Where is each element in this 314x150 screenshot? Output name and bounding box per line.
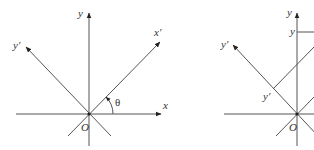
theta-arc [106, 97, 113, 114]
y-prime-axis [26, 47, 111, 136]
y-axis-label: y [77, 7, 83, 19]
y-point-label: y [289, 25, 295, 37]
right-panel: y y y′ y′ O [220, 6, 314, 146]
y-axis-label: y [286, 6, 292, 18]
origin-label: O [81, 121, 89, 133]
origin-label: O [289, 121, 297, 133]
left-panel: y x x′ y′ O θ [12, 7, 168, 146]
y-prime-axis-label: y′ [12, 39, 21, 51]
y-prime-axis [233, 45, 314, 136]
y-prime-axis-label: y′ [220, 38, 229, 50]
y-prime-projection-line [273, 47, 314, 89]
theta-label: θ [115, 96, 120, 108]
coordinate-rotation-diagram: y x x′ y′ O θ y y y′ y′ [0, 0, 314, 150]
x-axis-label: x [162, 99, 168, 111]
y-prime-point-label: y′ [262, 90, 271, 102]
origin-point [87, 112, 90, 115]
figure: y x x′ y′ O θ y y y′ y′ [0, 0, 314, 150]
x-prime-axis-label: x′ [153, 26, 162, 38]
origin-point [295, 112, 298, 115]
